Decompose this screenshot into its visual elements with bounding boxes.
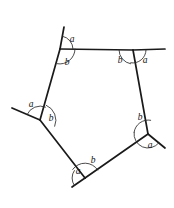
angle-label-top-left-b: b — [65, 57, 70, 67]
angle-label-bottom-a: a — [76, 166, 81, 176]
angle-arc-bottom-a — [72, 171, 74, 186]
angle-label-top-right-b: b — [118, 55, 123, 65]
pentagon-diagram: abbababaab — [0, 0, 174, 208]
angle-label-left-b: b — [49, 113, 54, 123]
angle-label-left-a: a — [29, 99, 34, 109]
ray-from-top-right — [133, 49, 165, 50]
angle-label-top-left-a: a — [70, 34, 75, 44]
angle-label-right-b: b — [138, 112, 143, 122]
angle-label-bottom-b: b — [91, 155, 96, 165]
ray-from-bottom — [72, 178, 85, 187]
angle-label-top-right-a: a — [143, 55, 148, 65]
ray-from-left — [12, 108, 40, 120]
geometry-figure: abbababaab — [0, 0, 174, 208]
angle-label-right-a: a — [148, 140, 153, 150]
pentagon-side-top — [60, 49, 133, 50]
ray-from-top-left — [60, 27, 64, 49]
pentagon-side-upper-left — [40, 49, 60, 120]
